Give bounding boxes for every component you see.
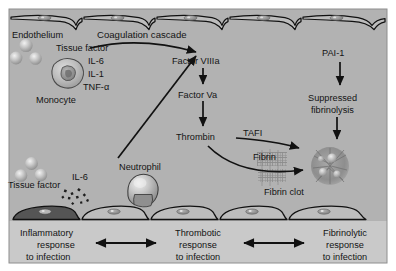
summary-line-1: Inflammatory bbox=[20, 228, 74, 238]
label-fibrin-clot: Fibrin clot bbox=[264, 187, 304, 197]
label-il6-lower: IL-6 bbox=[72, 172, 88, 182]
label-il6: IL-6 bbox=[88, 56, 104, 66]
label-tissue-factor-top: Tissue factor bbox=[56, 43, 108, 53]
label-neutrophil: Neutrophil bbox=[119, 162, 161, 172]
label-fibrinolysis: fibrinolysis bbox=[311, 105, 354, 115]
label-tnf-alpha: TNF-α bbox=[83, 82, 110, 92]
label-thrombin: Thrombin bbox=[176, 132, 215, 142]
summary-line-3: to infection bbox=[26, 252, 70, 262]
summary-line-1: Thrombotic bbox=[175, 228, 221, 238]
summary-line-3: to infection bbox=[176, 252, 220, 262]
label-pai-1: PAI-1 bbox=[322, 48, 344, 58]
label-tissue-factor-bottom: Tissue factor bbox=[8, 180, 60, 190]
vessel-lumen bbox=[9, 9, 387, 221]
label-il1: IL-1 bbox=[88, 69, 104, 79]
label-tafi: TAFI bbox=[243, 128, 262, 138]
summary-line-2: response bbox=[326, 240, 364, 250]
summary-line-2: response bbox=[37, 240, 75, 250]
label-suppressed: Suppressed bbox=[308, 93, 357, 103]
summary-line-3: to infection bbox=[323, 252, 367, 262]
label-factor-viiia: Factor VIIIa bbox=[172, 56, 220, 66]
fibrin-clot bbox=[311, 147, 349, 185]
coagulation-inflammation-diagram: Endothelium Coagulation cascade Tissue f… bbox=[0, 0, 396, 271]
summary-response-thrombotic: Thrombotic response to infection bbox=[175, 228, 221, 262]
label-factor-va: Factor Va bbox=[178, 90, 218, 100]
label-fibrin: Fibrin bbox=[253, 152, 276, 162]
summary-line-2: response bbox=[179, 240, 217, 250]
figure-container: Endothelium Coagulation cascade Tissue f… bbox=[0, 0, 396, 271]
monocyte-cell bbox=[52, 59, 84, 89]
endothelium-bottom bbox=[13, 206, 366, 219]
summary-line-1: Fibrinolytic bbox=[323, 228, 367, 238]
neutrophil-cell bbox=[128, 174, 158, 207]
label-endothelium: Endothelium bbox=[12, 30, 63, 40]
label-monocyte: Monocyte bbox=[36, 95, 76, 105]
label-coagulation-cascade: Coagulation cascade bbox=[97, 29, 187, 40]
summary-response-fibrinolytic: Fibrinolytic response to infection bbox=[323, 228, 368, 262]
